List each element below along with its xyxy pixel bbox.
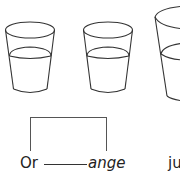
cup-icon (84, 22, 133, 93)
next-word-fragment: ju (168, 154, 180, 172)
answer-blank-line (44, 164, 87, 165)
cup-icon (155, 6, 180, 101)
cups-illustration (0, 0, 180, 105)
cup-icon (6, 22, 55, 93)
split-word: Or ange ju (20, 154, 180, 174)
word-first-part: Or (20, 154, 38, 172)
syllable-bracket (30, 117, 107, 151)
word-second-part: ange (88, 154, 125, 172)
